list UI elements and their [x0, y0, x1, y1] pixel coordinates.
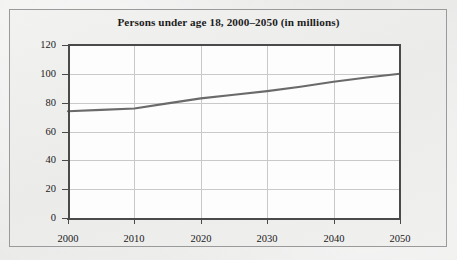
y-axis-tick-mark [62, 189, 69, 190]
y-axis-tick-label-text: 40 [22, 154, 56, 165]
plot-top-border [68, 44, 401, 46]
x-axis-tick-mark [68, 219, 69, 224]
x-axis-tick-label-text: 2030 [257, 233, 278, 244]
y-axis-tick-mark [62, 103, 69, 104]
plot-area [68, 45, 400, 218]
x-axis-tick-label: 2000 [48, 228, 88, 246]
x-axis-tick-label: 2020 [181, 228, 221, 246]
x-axis-tick-label-text: 2020 [191, 233, 212, 244]
x-axis-tick-label: 2030 [247, 228, 287, 246]
y-axis-tick-label-text: 0 [22, 212, 56, 223]
x-axis-tick-label-text: 2000 [58, 233, 79, 244]
x-axis-line [67, 218, 401, 220]
x-axis-tick-mark [134, 219, 135, 224]
y-axis-tick-label: 20 [22, 183, 56, 195]
y-axis-tick-label: 120 [22, 39, 56, 51]
chart-title: Persons under age 18, 2000–2050 (in mill… [0, 16, 457, 28]
y-axis-tick-label: 60 [22, 126, 56, 138]
x-axis-tick-label-text: 2050 [390, 233, 411, 244]
x-axis-tick-label: 2050 [380, 228, 420, 246]
x-axis-tick-mark [201, 219, 202, 224]
x-axis-tick-mark [334, 219, 335, 224]
x-axis-tick-label: 2010 [114, 228, 154, 246]
y-axis-tick-label-text: 100 [22, 68, 56, 79]
x-axis-tick-label-text: 2040 [324, 233, 345, 244]
y-axis-tick-mark [62, 74, 69, 75]
x-axis-tick-mark [400, 219, 401, 224]
x-axis-tick-mark [267, 219, 268, 224]
y-axis-tick-label: 80 [22, 97, 56, 109]
plot-right-border [399, 44, 401, 220]
y-axis-tick-mark [62, 45, 69, 46]
y-axis-tick-label-text: 120 [22, 39, 56, 50]
y-axis-tick-mark [62, 160, 69, 161]
y-axis-tick-label-text: 80 [22, 97, 56, 108]
chart-figure: Persons under age 18, 2000–2050 (in mill… [0, 0, 457, 260]
y-axis-tick-label: 100 [22, 68, 56, 80]
y-axis-tick-mark [62, 132, 69, 133]
y-axis-tick-label: 0 [22, 212, 56, 224]
x-axis-tick-label: 2040 [314, 228, 354, 246]
x-axis-tick-label-text: 2010 [124, 233, 145, 244]
y-axis-tick-label-text: 60 [22, 126, 56, 137]
data-series-line [68, 45, 400, 218]
y-axis-tick-label-text: 20 [22, 183, 56, 194]
y-axis-tick-label: 40 [22, 154, 56, 166]
